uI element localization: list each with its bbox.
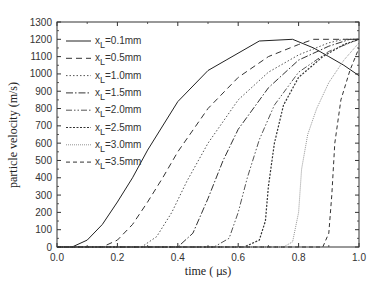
y-tick-label: 500 [35, 155, 52, 166]
y-tick-label: 1200 [30, 34, 53, 45]
legend: xL=0.1mmxL=0.5mmxL=1.0mmxL=1.5mmxL=2.0mm… [66, 35, 141, 171]
y-tick-label: 600 [35, 138, 52, 149]
legend-label-0: xL=0.1mm [95, 35, 141, 50]
x-tick-label: 0.2 [110, 252, 124, 263]
line-chart: 0100200300400500600700800900100011001200… [0, 0, 384, 286]
y-tick-label: 100 [35, 224, 52, 235]
x-title-prefix: time ( [185, 264, 216, 278]
y-tick-label: 800 [35, 103, 52, 114]
legend-label-3: xL=1.5mm [95, 87, 141, 102]
x-tick-label: 0.0 [50, 252, 64, 263]
y-tick-label: 700 [35, 120, 52, 131]
y-tick-label: 900 [35, 86, 52, 97]
x-tick-label: 0.6 [231, 252, 245, 263]
y-axis-title: particle velocity (m/s) [6, 82, 20, 188]
y-tick-label: 1300 [30, 17, 53, 28]
y-tick-label: 1000 [30, 68, 53, 79]
y-tick-label: 0 [46, 242, 52, 253]
x-tick-label: 0.8 [292, 252, 306, 263]
legend-label-6: xL=3.0mm [95, 139, 141, 154]
y-tick-label: 200 [35, 207, 52, 218]
y-tick-label: 1100 [30, 51, 52, 62]
y-tick-label: 300 [35, 190, 52, 201]
legend-label-4: xL=2.0mm [95, 104, 141, 119]
legend-label-7: xL=3.5mm [95, 156, 141, 171]
y-tick-label: 400 [35, 172, 52, 183]
legend-label-5: xL=2.5mm [95, 122, 141, 137]
x-title-suffix: s) [223, 264, 232, 278]
legend-label-1: xL=0.5mm [95, 52, 141, 67]
axes: 0100200300400500600700800900100011001200… [30, 17, 367, 264]
x-tick-label: 0.4 [171, 252, 185, 263]
x-tick-label: 1.0 [352, 252, 366, 263]
x-axis-title: time ( μs) [185, 264, 231, 278]
legend-label-2: xL=1.0mm [95, 70, 141, 85]
